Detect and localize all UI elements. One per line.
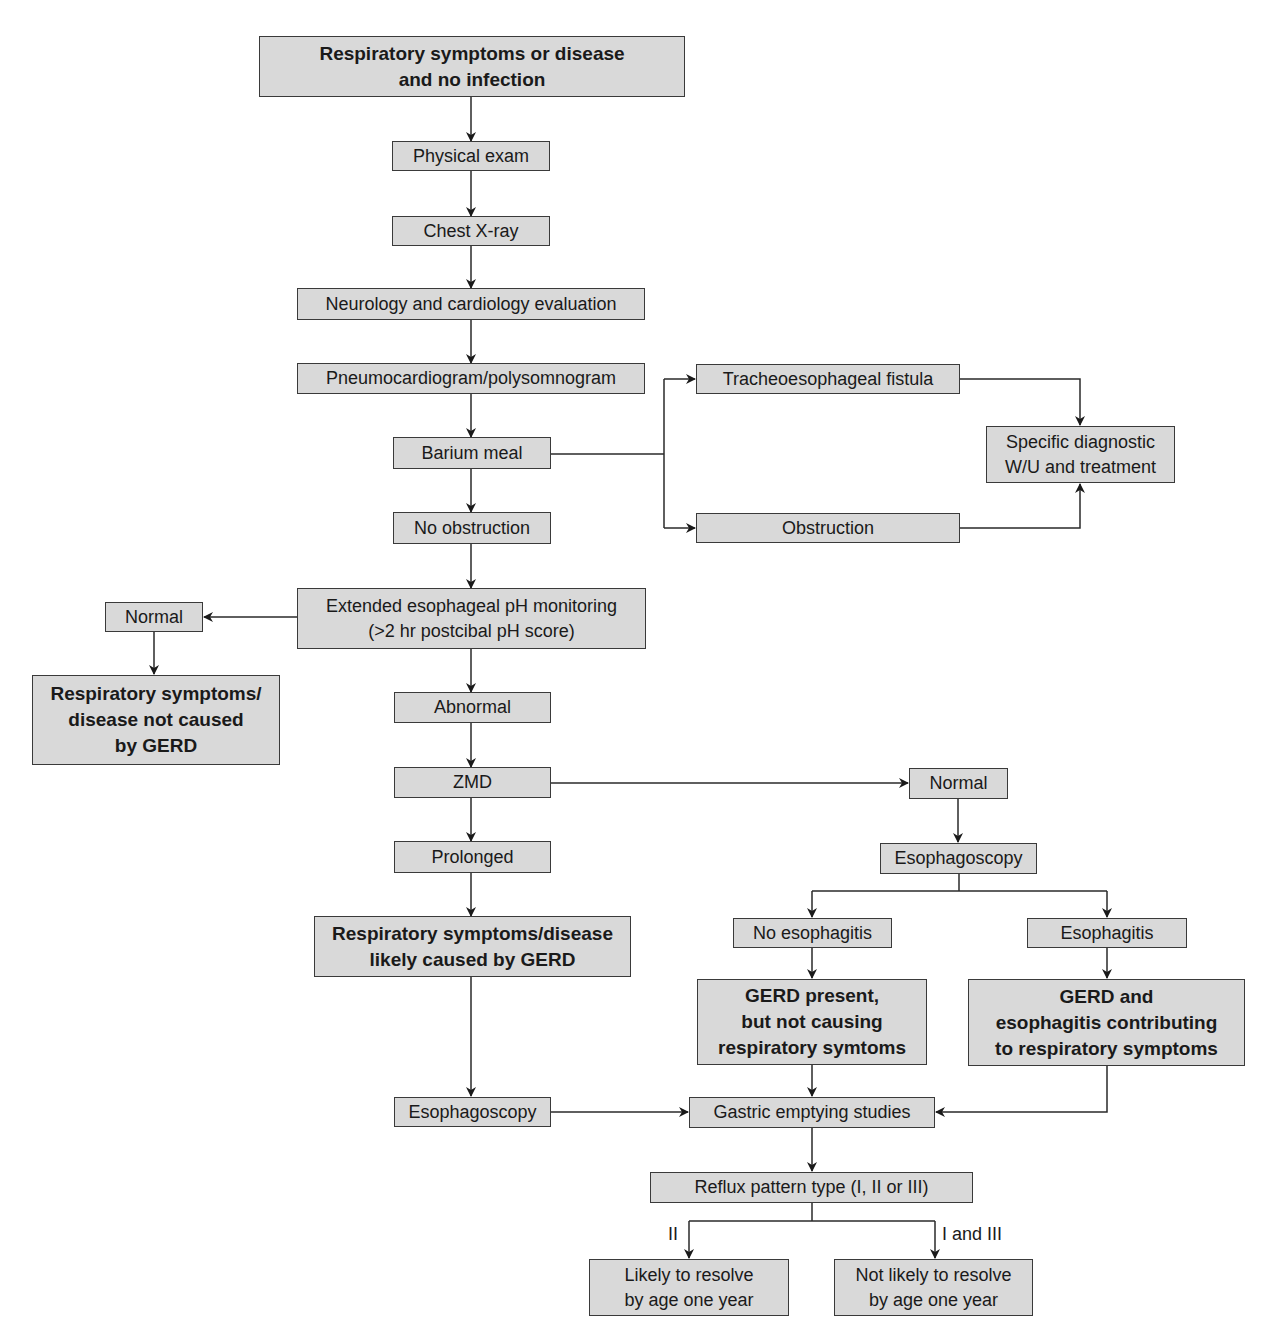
gastric-emptying-node: Gastric emptying studies [689,1097,935,1128]
esophagoscopy-left-node: Esophagoscopy [394,1097,551,1127]
not-likely-to-resolve-node: Not likely to resolve by age one year [834,1259,1033,1316]
not-caused-by-gerd-node: Respiratory symptoms/ disease not caused… [32,675,280,765]
connector-lines [0,0,1274,1340]
esophagoscopy-right-node: Esophagoscopy [880,843,1037,874]
gerd-esophagitis-node: GERD and esophagitis contributing to res… [968,979,1245,1066]
edge-label-type-i-iii: I and III [942,1224,1002,1245]
ph-monitoring-node: Extended esophageal pH monitoring (>2 hr… [297,588,646,649]
esophagitis-node: Esophagitis [1027,918,1187,948]
pneumocardiogram-node: Pneumocardiogram/polysomnogram [297,363,645,394]
start-node: Respiratory symptoms or disease and no i… [259,36,685,97]
no-esophagitis-node: No esophagitis [733,918,892,948]
zmd-node: ZMD [394,767,551,798]
likely-to-resolve-node: Likely to resolve by age one year [589,1259,789,1316]
prolonged-node: Prolonged [394,841,551,873]
specific-diagnostic-node: Specific diagnostic W/U and treatment [986,426,1175,483]
flowchart-canvas: Respiratory symptoms or disease and no i… [0,0,1274,1340]
abnormal-node: Abnormal [394,692,551,723]
no-obstruction-node: No obstruction [393,512,551,544]
tracheoesophageal-fistula-node: Tracheoesophageal fistula [696,364,960,394]
normal-right-node: Normal [909,768,1008,799]
edge-label-type-ii: II [668,1224,678,1245]
neuro-cardio-node: Neurology and cardiology evaluation [297,288,645,320]
normal-left-node: Normal [105,602,203,632]
gerd-present-node: GERD present, but not causing respirator… [697,979,927,1065]
likely-caused-by-gerd-node: Respiratory symptoms/disease likely caus… [314,916,631,977]
physical-exam-node: Physical exam [392,141,550,171]
chest-xray-node: Chest X-ray [392,216,550,246]
obstruction-node: Obstruction [696,513,960,543]
reflux-pattern-node: Reflux pattern type (I, II or III) [650,1172,973,1203]
barium-meal-node: Barium meal [393,437,551,469]
